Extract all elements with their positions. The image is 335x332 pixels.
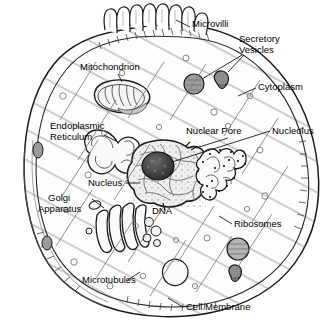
label-nucleus: Nucleus: [88, 178, 122, 189]
label-mitochondrion: Mitochondrion: [80, 62, 140, 73]
label-ribosomes: Ribosomes: [234, 219, 282, 230]
label-cell-membrane: Cell Membrane: [186, 302, 250, 313]
cell-illustration: [0, 0, 335, 332]
label-endoplasmic-reticulum-line2: Reticulum: [50, 131, 92, 142]
vacuole: [162, 259, 188, 285]
label-cytoplasm: Cytoplasm: [258, 82, 303, 93]
label-microtubules: Microtubules: [82, 275, 136, 286]
label-golgi-apparatus-line1: Golgi: [48, 192, 70, 203]
label-golgi-apparatus-line2: Apparatus: [38, 203, 81, 214]
label-endoplasmic-reticulum-line1: Endoplasmic: [50, 120, 104, 131]
label-nuclear-pore: Nuclear Pore: [186, 126, 241, 137]
label-secretory-vesicles-line1: Secretory: [239, 33, 280, 44]
label-nucleolus: Nucleolus: [272, 126, 314, 137]
animal-cell-diagram: Microvilli Secretory Vesicles Cytoplasm …: [0, 0, 335, 332]
label-microvilli: Microvilli: [192, 19, 228, 30]
label-secretory-vesicles-line2: Vesicles: [239, 44, 274, 55]
label-dna: DNA: [152, 206, 172, 217]
nucleolus: [142, 152, 174, 180]
